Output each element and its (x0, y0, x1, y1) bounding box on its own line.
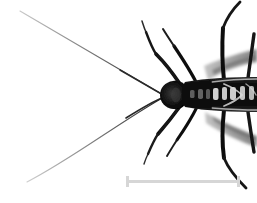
insect-body (160, 77, 257, 112)
figure-root: Insect specimen macro photograph (0, 0, 257, 203)
scale-bar-line (126, 180, 240, 183)
scale-bar-cap-left (126, 176, 129, 187)
insect-photograph (0, 0, 257, 203)
scale-bar-cap-right (237, 176, 240, 187)
